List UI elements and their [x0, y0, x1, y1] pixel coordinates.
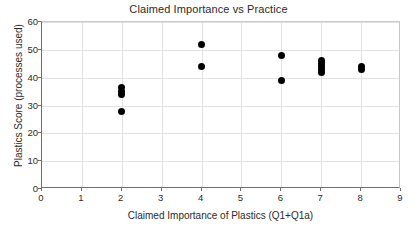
x-tick-label: 6	[265, 192, 295, 203]
y-axis-label: Plastics Score (processes used)	[13, 6, 24, 186]
gridline-horizontal	[42, 22, 399, 23]
x-tick-label: 7	[305, 192, 335, 203]
gridline-vertical	[122, 22, 123, 187]
x-tick-label: 1	[66, 192, 96, 203]
x-tick-label: 0	[26, 192, 56, 203]
x-tick-label: 8	[345, 192, 375, 203]
x-tick-mark	[360, 188, 361, 191]
scatter-chart-screenshot: Claimed Importance vs Practice 010203040…	[0, 0, 417, 235]
x-tick-mark	[240, 188, 241, 191]
data-point	[278, 52, 285, 59]
x-tick-label: 3	[146, 192, 176, 203]
data-point	[318, 69, 325, 76]
y-tick-mark	[38, 132, 41, 133]
x-tick-mark	[41, 188, 42, 191]
y-tick-mark	[38, 160, 41, 161]
x-tick-label: 9	[385, 192, 415, 203]
x-tick-mark	[400, 188, 401, 191]
x-tick-label: 4	[186, 192, 216, 203]
data-point	[198, 41, 205, 48]
gridline-vertical	[361, 22, 362, 187]
data-point	[278, 77, 285, 84]
y-tick-mark	[38, 49, 41, 50]
gridline-vertical	[321, 22, 322, 187]
y-tick-mark	[38, 77, 41, 78]
x-axis-label: Claimed Importance of Plastics (Q1+Q1a)	[41, 210, 400, 221]
plot-area	[41, 21, 400, 188]
data-point	[118, 108, 125, 115]
x-tick-mark	[81, 188, 82, 191]
x-tick-mark	[320, 188, 321, 191]
gridline-horizontal	[42, 78, 399, 79]
data-point	[358, 66, 365, 73]
gridline-vertical	[162, 22, 163, 187]
x-tick-label: 5	[225, 192, 255, 203]
x-tick-mark	[121, 188, 122, 191]
gridline-vertical	[241, 22, 242, 187]
gridline-horizontal	[42, 161, 399, 162]
gridline-vertical	[82, 22, 83, 187]
x-tick-mark	[161, 188, 162, 191]
y-tick-mark	[38, 105, 41, 106]
data-point	[198, 63, 205, 70]
gridline-horizontal	[42, 50, 399, 51]
x-tick-mark	[201, 188, 202, 191]
data-point	[118, 91, 125, 98]
x-tick-mark	[280, 188, 281, 191]
gridline-vertical	[281, 22, 282, 187]
chart-title: Claimed Importance vs Practice	[0, 3, 417, 15]
gridline-horizontal	[42, 133, 399, 134]
x-axis-tick-labels: 0123456789	[0, 192, 417, 206]
gridline-horizontal	[42, 106, 399, 107]
y-tick-mark	[38, 21, 41, 22]
x-tick-label: 2	[106, 192, 136, 203]
